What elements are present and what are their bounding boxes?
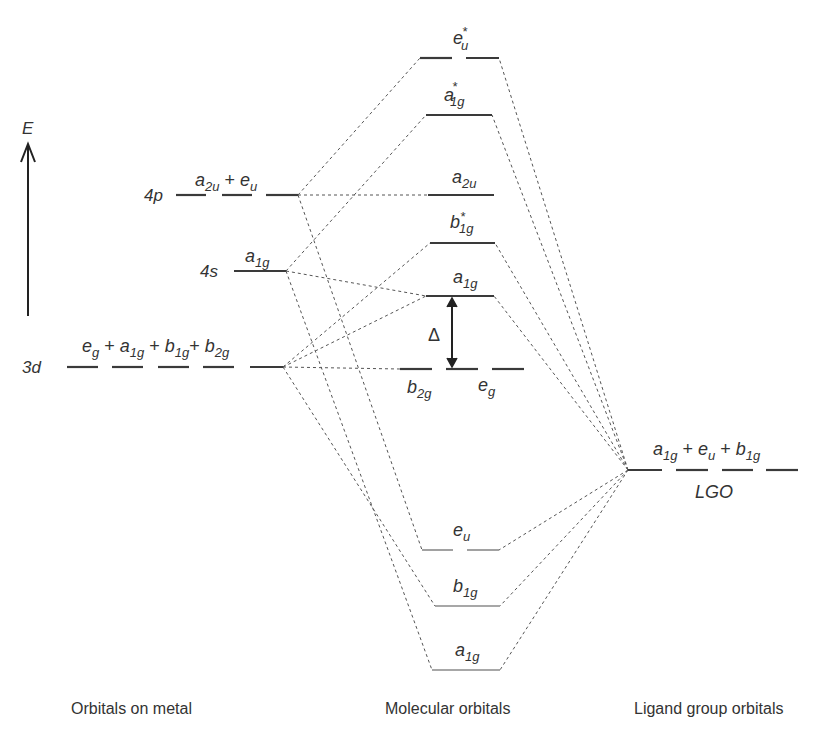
mo-b2g-eg-level: b2g eg [400,369,524,401]
metal-4s-level: 4s a1g [200,246,286,281]
mo-eu-level: eu [422,520,499,550]
metal-4p-level: 4p a2u + eu [144,170,298,205]
mo-b1g-level: b1g [435,576,500,606]
lgo-symmetry: a1g + eu + b1g [653,439,761,463]
mo-eu-star-level: e*u [420,24,499,58]
svg-text:eg: eg [478,375,496,399]
mo-column-caption: Molecular orbitals [385,700,510,717]
metal-column-caption: Orbitals on metal [71,700,192,717]
svg-text:a1g: a1g [455,640,480,664]
energy-axis-label: E [22,119,34,138]
svg-text:eu: eu [453,520,470,544]
metal-4s-name: 4s [200,262,218,281]
delta-splitting: Δ [428,298,457,367]
metal-4p-name: 4p [144,186,163,205]
svg-text:a*1g: a*1g [444,79,465,109]
mo-a2u-level: a2u [428,167,494,195]
lgo-level: a1g + eu + b1g LGO [628,439,798,502]
delta-label: Δ [428,325,440,345]
mo-a1g-level: a1g [426,267,494,296]
mo-diagram: E 4p a2u + eu 4s a1g [0,0,827,732]
metal-4p-symmetry: a2u + eu [195,170,257,194]
metal-3d-name: 3d [22,358,41,377]
svg-text:e*u: e*u [453,24,468,53]
svg-text:a2u: a2u [452,167,476,191]
metal-3d-symmetry: eg + a1g + b1g+ b2g [82,336,230,360]
svg-text:b*1g: b*1g [450,209,474,236]
metal-3d-level: 3d eg + a1g + b1g+ b2g [22,336,283,377]
mo-a1g-low-level: a1g [432,640,500,670]
svg-text:b2g: b2g [407,377,432,401]
arrow-up-icon [447,298,457,307]
svg-text:a1g: a1g [453,267,478,291]
svg-text:b1g: b1g [453,576,478,600]
ligand-column-caption: Ligand group orbitals [634,700,783,717]
mo-b1g-star-level: b*1g [430,209,495,243]
mo-a1g-star-level: a*1g [426,79,492,115]
lgo-name: LGO [695,482,733,502]
metal-4s-symmetry: a1g [245,246,270,270]
arrow-down-icon [447,358,457,367]
energy-axis: E [21,119,35,316]
